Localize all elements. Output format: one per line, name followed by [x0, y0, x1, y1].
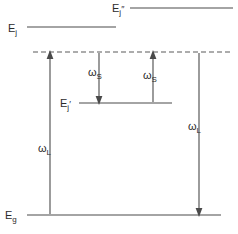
- level-label-base-E-j: E: [8, 22, 15, 34]
- level-label-E-j-double-prime: Ej″: [112, 2, 125, 17]
- level-label-E-j: Ej: [8, 22, 17, 37]
- level-label-prime-E-j-prime: ′: [69, 99, 71, 109]
- svg-text:ωL: ωL: [188, 120, 202, 135]
- level-label-prime-E-j-double-prime: ″: [121, 4, 125, 14]
- level-label-base-E-j-double-prime: E: [112, 2, 119, 14]
- transition-label-omega-S-right: ωS: [143, 69, 157, 84]
- svg-text:Ej″: Ej″: [112, 2, 125, 17]
- arrow-head-up-icon-omega-L-left: [47, 50, 54, 59]
- level-label-base-E-g: E: [5, 209, 12, 221]
- level-label-base-E-j-prime: E: [60, 97, 67, 109]
- svg-text:ωS: ωS: [88, 66, 102, 81]
- svg-text:Eg: Eg: [5, 209, 17, 224]
- transition-label-subscript-omega-L-right: L: [197, 126, 202, 135]
- arrow-head-down-icon-omega-L-right: [196, 208, 203, 217]
- transition-label-subscript-omega-L-left: L: [47, 148, 52, 157]
- svg-text:ωS: ωS: [143, 69, 157, 84]
- transition-label-subscript-omega-S-right: S: [152, 75, 157, 84]
- transition-label-omega-L-right: ωL: [188, 120, 202, 135]
- level-label-subscript-E-g: g: [12, 215, 16, 224]
- energy-level-diagram: Ej″ Ej Ej′ Eg ωL ωS: [0, 0, 238, 234]
- transition-label-omega-S-left: ωS: [88, 66, 102, 81]
- transition-label-subscript-omega-S-left: S: [97, 72, 102, 81]
- svg-text:Ej′: Ej′: [60, 97, 71, 112]
- level-label-E-j-prime: Ej′: [60, 97, 71, 112]
- svg-text:Ej: Ej: [8, 22, 17, 37]
- energy-diagram-canvas: Ej″ Ej Ej′ Eg ωL ωS: [0, 0, 238, 234]
- arrow-head-up-icon-omega-S-right: [150, 50, 157, 59]
- level-label-subscript-E-j: j: [14, 28, 17, 37]
- arrow-head-down-icon-omega-S-left: [96, 96, 103, 105]
- level-label-E-g: Eg: [5, 209, 17, 224]
